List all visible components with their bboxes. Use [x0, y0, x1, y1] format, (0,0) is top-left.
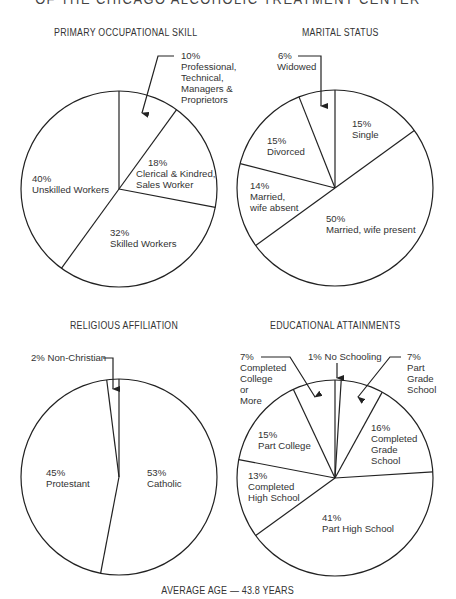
label-completed-college-text: Completed	[240, 362, 286, 373]
label-professional-text: Professional,	[181, 61, 236, 72]
label-wife-absent-text: Married,	[250, 191, 285, 202]
labels-marital-status: 6% Widowed 15% Single 15% Divorced 14% M…	[249, 50, 416, 235]
labels-religious-affiliation: 2% Non-Christian 45% Protestant 53% Cath…	[31, 352, 182, 489]
label-catholic-pct: 53%	[147, 467, 167, 478]
label-part-grade-text: Grade	[407, 373, 434, 384]
label-completed-high-pct: 13%	[248, 470, 268, 481]
label-completed-high-text: Completed	[248, 481, 294, 492]
label-wife-present-text: Married, wife present	[326, 224, 416, 235]
label-wife-absent-text: wife absent	[249, 202, 299, 213]
label-wife-absent-pct: 14%	[250, 180, 270, 191]
label-protestant-text: Protestant	[46, 478, 90, 489]
label-completed-college-text: More	[240, 395, 262, 406]
label-completed-grade-text: Completed	[371, 433, 417, 444]
label-wife-present-pct: 50%	[326, 213, 346, 224]
label-completed-college-text: College	[240, 373, 273, 384]
label-completed-grade-text: Grade	[371, 444, 398, 455]
footer-text: AVERAGE AGE — 43.8 YEARS	[162, 585, 295, 596]
label-completed-college-text: or	[240, 384, 249, 395]
label-completed-grade-pct: 16%	[371, 422, 391, 433]
labels-educational-attainments: 7% Completed College or More 1% No Schoo…	[240, 351, 436, 534]
label-part-grade-text: School	[407, 384, 436, 395]
label-professional-text: Managers &	[181, 83, 233, 94]
pie-charts: 10% Professional, Technical, Managers & …	[0, 0, 456, 599]
label-skilled-text: Skilled Workers	[110, 238, 177, 249]
footer-average-age: AVERAGE AGE — 43.8 YEARS	[0, 585, 456, 596]
label-divorced-text: Divorced	[267, 146, 305, 157]
label-professional-text: Proprietors	[181, 94, 228, 105]
label-skilled-pct: 32%	[110, 227, 130, 238]
label-widowed-text: Widowed	[277, 61, 316, 72]
label-unskilled-text: Unskilled Workers	[32, 184, 109, 195]
label-single-pct: 15%	[352, 118, 372, 129]
label-non-christian: 2% Non-Christian	[31, 352, 106, 363]
label-catholic-text: Catholic	[147, 478, 182, 489]
label-part-grade-pct: 7%	[407, 351, 421, 362]
label-divorced-pct: 15%	[267, 135, 287, 146]
label-clerical-pct: 18%	[148, 157, 168, 168]
label-part-grade-text: Part	[407, 362, 425, 373]
label-part-college-text: Part College	[258, 440, 311, 451]
label-clerical-text: Clerical & Kindred,	[136, 168, 215, 179]
label-completed-high-text: High School	[248, 492, 300, 503]
label-no-schooling: 1% No Schooling	[308, 351, 382, 362]
label-widowed-pct: 6%	[278, 50, 292, 61]
label-part-high-pct: 41%	[322, 512, 342, 523]
label-single-text: Single	[352, 129, 379, 140]
labels-occupational-skill: 10% Professional, Technical, Managers & …	[32, 50, 236, 249]
label-professional-pct: 10%	[181, 50, 201, 61]
label-completed-grade-text: School	[371, 455, 400, 466]
label-clerical-text: Sales Worker	[136, 179, 194, 190]
label-part-college-pct: 15%	[258, 429, 278, 440]
label-unskilled-pct: 40%	[32, 173, 52, 184]
label-protestant-pct: 45%	[46, 467, 66, 478]
label-professional-text: Technical,	[181, 72, 224, 83]
label-completed-college-pct: 7%	[240, 351, 254, 362]
label-part-high-text: Part High School	[322, 523, 394, 534]
